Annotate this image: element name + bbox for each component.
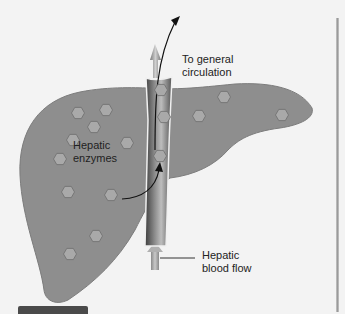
- enzyme-hexagon-icon: [105, 189, 118, 200]
- enzyme-hexagon-icon: [154, 150, 167, 161]
- enzyme-hexagon-icon: [72, 107, 85, 118]
- hepatic-enzymes-label: Hepatic enzymes: [73, 139, 117, 165]
- enzyme-hexagon-icon: [90, 230, 103, 241]
- enzyme-hexagon-icon: [218, 91, 231, 102]
- to-circulation-line2: circulation: [182, 66, 233, 79]
- blood-flow-line2: blood flow: [202, 262, 252, 275]
- blood-flow-label: Hepatic blood flow: [202, 249, 252, 275]
- enzymes-line2: enzymes: [73, 152, 117, 165]
- enzyme-hexagon-icon: [100, 104, 113, 115]
- enzyme-hexagon-icon: [121, 137, 134, 148]
- figure-caption-tab: [18, 306, 88, 314]
- blood-flow-stem: [151, 250, 159, 270]
- to-circulation-label: To general circulation: [182, 53, 233, 79]
- enzyme-hexagon-icon: [155, 84, 168, 95]
- blood-flow-line1: Hepatic: [202, 249, 252, 262]
- to-circulation-line1: To general: [182, 53, 233, 66]
- enzyme-hexagon-icon: [276, 109, 289, 120]
- page-edge: [336, 18, 339, 312]
- enzymes-line1: Hepatic: [73, 139, 117, 152]
- enzyme-hexagon-icon: [62, 186, 75, 197]
- enzyme-hexagon-icon: [88, 121, 101, 132]
- enzyme-hexagon-icon: [193, 110, 206, 121]
- enzyme-hexagon-icon: [64, 248, 77, 259]
- enzyme-hexagon-icon: [54, 153, 67, 164]
- enzyme-hexagon-icon: [158, 111, 171, 122]
